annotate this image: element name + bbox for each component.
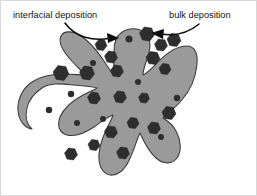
deposit-hex-top-right — [140, 27, 155, 41]
deposit-dot-left-upper — [90, 60, 96, 66]
deposit-dot-left-lower — [46, 107, 52, 113]
deposit-hex-bottom-left-1 — [88, 139, 100, 150]
figure-container: interfacial deposition bulk deposition — [0, 0, 257, 196]
bulk-deposition-annotation: bulk deposition — [151, 10, 231, 39]
deposit-dot-lower-left — [74, 120, 80, 126]
deposit-dot-left — [68, 91, 74, 97]
deposit-dot-center-right — [135, 79, 141, 85]
deposit-hex-upper-left-1 — [95, 39, 107, 50]
deposit-dot-bottom-right — [158, 134, 164, 140]
deposit-dot-right — [174, 95, 180, 101]
deposition-diagram: interfacial deposition bulk deposition — [1, 1, 257, 196]
particle-group — [18, 29, 197, 175]
bulk-deposition-label: bulk deposition — [169, 10, 231, 20]
deposit-hex-upper-right-1 — [155, 39, 168, 51]
dendritic-particle-shape — [18, 29, 197, 175]
deposit-dot-top — [126, 36, 133, 43]
interfacial-deposition-label: interfacial deposition — [13, 10, 97, 20]
deposit-dot-lower-center — [100, 116, 106, 122]
deposit-hex-bottom-left-2 — [65, 148, 78, 160]
bulk-deposition-arrow — [161, 24, 199, 35]
